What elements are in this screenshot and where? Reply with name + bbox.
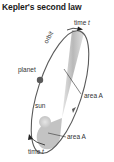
time-top-text: time (74, 19, 86, 26)
time-top-var: t (88, 19, 90, 26)
time-top-label: time t (74, 19, 90, 26)
orbit-diagram (0, 0, 114, 162)
time-bottom-label: time t (28, 148, 44, 155)
sun-icon (39, 116, 51, 128)
planet-icon (37, 77, 43, 83)
area-a-lower-label: area A (67, 133, 86, 140)
area-a-upper-wedge (62, 30, 84, 118)
time-bottom-var: t (42, 148, 44, 155)
area-a-upper-label: area A (84, 92, 103, 99)
time-bottom-text: time (28, 148, 40, 155)
planet-label: planet (18, 66, 36, 73)
orbit-direction-arrow-icon (72, 107, 76, 113)
time-top-arrow-icon (67, 28, 79, 30)
sun-label: sun (35, 102, 45, 109)
